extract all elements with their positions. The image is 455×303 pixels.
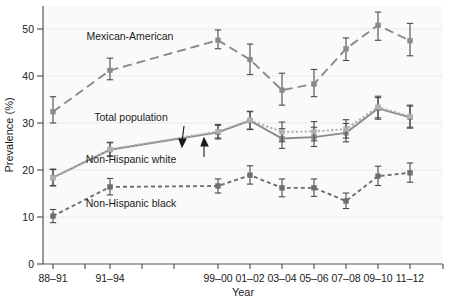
total-population-label: Total population [94, 111, 168, 123]
data-point-marker [408, 114, 413, 119]
data-point-marker [312, 82, 317, 87]
data-point-marker [216, 129, 221, 134]
x-tick-label: 11–12 [396, 272, 425, 284]
data-point-marker [248, 118, 253, 123]
data-point-marker [376, 105, 381, 110]
y-axis-ticks [37, 29, 43, 264]
x-axis-title: Year [232, 286, 255, 298]
y-axis-title: Prevalence (%) [3, 97, 15, 172]
data-point-marker [216, 184, 221, 189]
x-tick-label: 01–02 [235, 272, 264, 284]
data-point-marker [312, 129, 317, 134]
x-tick-label: 03–04 [267, 272, 296, 284]
data-point-marker [312, 186, 317, 191]
x-tick-label: 09–10 [363, 272, 392, 284]
data-point-marker [280, 186, 285, 191]
data-point-marker [248, 57, 253, 62]
x-tick-label: 88–91 [38, 272, 67, 284]
data-point-marker [376, 174, 381, 179]
data-point-marker [344, 199, 349, 204]
x-tick-label: 91–94 [95, 272, 124, 284]
y-tick-label: 30 [22, 117, 34, 129]
y-tick-label: 20 [22, 164, 34, 176]
mexican-american-label: Mexican-American [87, 30, 174, 42]
x-axis-tick-labels: 88–9191–9499–0001–0203–0405–0607–0809–10… [38, 272, 424, 284]
data-point-marker [344, 46, 349, 51]
x-tick-label: 05–06 [299, 272, 328, 284]
data-point-marker [108, 68, 113, 73]
data-point-marker [408, 38, 413, 43]
plot-background [43, 6, 443, 264]
y-axis-tick-labels: 50 40 30 20 10 0 [22, 23, 34, 270]
data-point-marker [108, 147, 113, 152]
data-point-marker [344, 127, 349, 132]
prevalence-line-chart: 50 40 30 20 10 0 Prevalence (%) 88–9191–… [0, 0, 455, 303]
data-point-marker [376, 23, 381, 28]
data-point-marker [51, 109, 56, 114]
data-point-marker [408, 171, 413, 176]
y-tick-label: 50 [22, 23, 34, 35]
y-tick-label: 0 [28, 258, 34, 270]
non-hispanic-white-label: Non-Hispanic white [86, 153, 177, 165]
x-tick-label: 99–00 [203, 272, 232, 284]
x-tick-label: 07–08 [331, 272, 360, 284]
data-point-marker [51, 214, 56, 219]
data-point-marker [108, 185, 113, 190]
x-axis-ticks [53, 264, 443, 269]
data-point-marker [280, 88, 285, 93]
y-tick-label: 10 [22, 211, 34, 223]
data-point-marker [216, 38, 221, 43]
y-tick-label: 40 [22, 70, 34, 82]
data-point-marker [248, 173, 253, 178]
data-point-marker [51, 176, 56, 181]
data-point-marker [280, 130, 285, 135]
non-hispanic-black-label: Non-Hispanic black [86, 197, 177, 209]
